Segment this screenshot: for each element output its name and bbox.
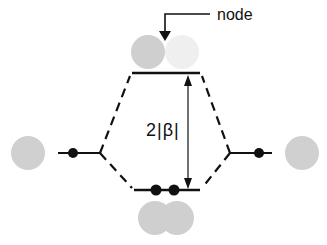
energy-gap-label: 2|β| — [146, 120, 180, 141]
antibonding-lobe-left-icon — [131, 35, 165, 69]
right-atom-orbital-icon — [285, 136, 319, 170]
gap-arrowhead-up-icon — [184, 75, 192, 86]
left-electron-icon — [68, 148, 78, 158]
antibonding-lobe-right-icon — [165, 35, 199, 69]
mo-diagram: node 2|β| — [0, 0, 327, 245]
bonding-lobe-right-icon — [160, 201, 194, 235]
right-electron-icon — [254, 148, 264, 158]
left-atom-orbital-icon — [11, 136, 45, 170]
node-arrowhead-icon — [159, 31, 171, 41]
node-label: node — [217, 6, 253, 24]
bonding-electron-2-icon — [169, 185, 180, 196]
node-pointer-icon — [165, 14, 210, 34]
bonding-electron-1-icon — [151, 185, 162, 196]
gap-arrowhead-down-icon — [184, 178, 192, 189]
